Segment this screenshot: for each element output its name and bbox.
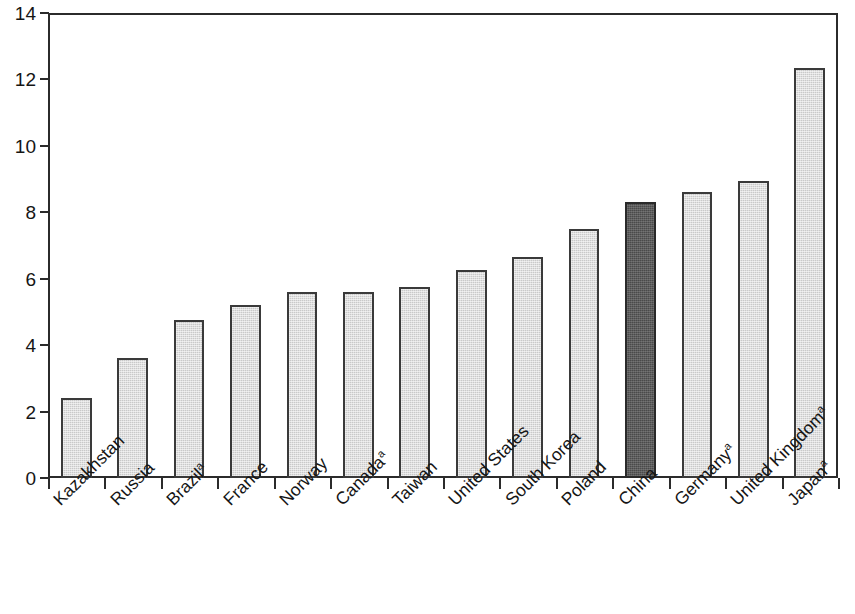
x-axis-tick-mark [669, 478, 671, 489]
footnote-marker: a [721, 439, 734, 452]
x-axis-tick-mark [499, 478, 501, 489]
y-axis-tick-mark [40, 411, 49, 413]
x-axis-tick-mark [104, 478, 106, 489]
x-axis-category-label: Poland [558, 457, 610, 509]
x-axis-tick-mark [443, 478, 445, 489]
footnote-marker: a [816, 457, 829, 470]
footnote-marker: a [193, 459, 206, 472]
x-axis-tick-mark [161, 478, 163, 489]
x-axis-category-label: France [220, 457, 272, 509]
x-axis-category-label: China [615, 464, 661, 510]
y-axis-tick-mark [40, 145, 49, 147]
footnote-marker: a [814, 402, 827, 415]
x-axis-category-label: Taiwan [389, 457, 441, 509]
x-axis-tick-mark [556, 478, 558, 489]
x-axis-tick-mark [612, 478, 614, 489]
x-axis-tick-mark [330, 478, 332, 489]
x-axis-category-label: Japana [784, 458, 835, 509]
x-axis-category-label: Canadaa [332, 448, 393, 509]
x-axis-category-label: United Kingdoma [727, 404, 833, 510]
x-axis-category-labels: KazakhstanRussiaBrazilaFranceNorwayCanad… [0, 0, 855, 614]
x-axis-tick-mark [782, 478, 784, 489]
x-axis-tick-mark [217, 478, 219, 489]
y-axis-tick-mark [40, 12, 49, 14]
x-axis-category-label: Norway [276, 454, 331, 509]
x-axis-category-label: Russia [107, 458, 158, 509]
y-axis-tick-mark [40, 78, 49, 80]
x-axis-tick-mark [838, 478, 840, 489]
x-axis-tick-mark [725, 478, 727, 489]
x-axis-tick-mark [387, 478, 389, 489]
y-axis-tick-mark [40, 344, 49, 346]
bar-chart: 02468101214 KazakhstanRussiaBrazilaFranc… [0, 0, 855, 614]
x-axis-tick-mark [274, 478, 276, 489]
y-axis-tick-mark [40, 211, 49, 213]
x-axis-tick-mark [48, 478, 50, 489]
x-axis-category-label: Brazila [163, 461, 212, 510]
y-axis-tick-mark [40, 278, 49, 280]
footnote-marker: a [374, 447, 387, 460]
